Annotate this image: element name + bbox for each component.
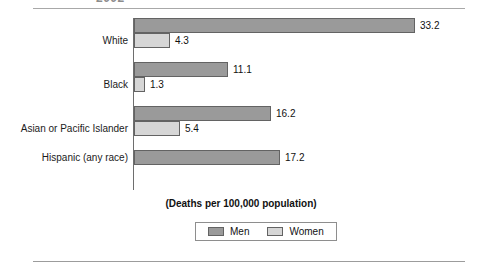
bar-value-women: 1.3 [150, 79, 164, 90]
bar-men [134, 106, 271, 121]
category-label: Hispanic (any race) [42, 152, 128, 163]
bottom-divider-rule [33, 261, 465, 262]
chart-legend: Men Women [195, 222, 337, 241]
bar-men [134, 150, 280, 165]
legend-swatch-men-icon [208, 227, 224, 236]
legend-label-women: Women [289, 226, 323, 237]
bar-women [134, 121, 180, 136]
bar-value-women: 4.3 [175, 35, 189, 46]
bar-value-men: 33.2 [420, 20, 439, 31]
legend-item-men: Men [208, 226, 249, 237]
category-label: Asian or Pacific Islander [21, 123, 128, 134]
bar-value-men: 16.2 [276, 108, 295, 119]
bar-women [134, 77, 145, 92]
bar-value-men: 11.1 [233, 64, 252, 75]
legend-swatch-women-icon [267, 227, 283, 236]
bar-women [134, 33, 170, 48]
legend-item-women: Women [267, 226, 323, 237]
chart-page: 2002 White33.24.3Black11.11.3Asian or Pa… [0, 0, 482, 268]
chart-plot-area: White33.24.3Black11.11.3Asian or Pacific… [0, 14, 482, 192]
category-label: Black [104, 79, 128, 90]
bar-value-men: 17.2 [285, 152, 304, 163]
legend-label-men: Men [230, 226, 249, 237]
bar-men [134, 18, 415, 33]
bar-men [134, 62, 228, 77]
axis-caption: (Deaths per 100,000 population) [0, 198, 482, 209]
category-label: White [102, 35, 128, 46]
top-divider-rule [33, 8, 465, 9]
clipped-year-title: 2002 [96, 0, 125, 5]
bar-value-women: 5.4 [185, 123, 199, 134]
